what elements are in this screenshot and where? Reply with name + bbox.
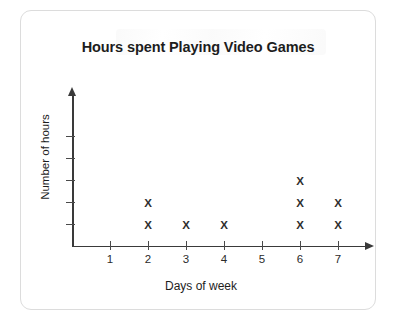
data-mark: X xyxy=(293,220,307,232)
y-axis-tick xyxy=(66,224,75,225)
x-axis-tick-label: 5 xyxy=(252,253,272,265)
x-axis-tick xyxy=(148,241,149,250)
data-mark: X xyxy=(141,198,155,210)
x-axis-tick xyxy=(110,241,111,250)
data-mark: X xyxy=(331,198,345,210)
data-mark: X xyxy=(331,220,345,232)
y-axis-arrow-icon xyxy=(68,87,76,96)
x-axis-tick-label: 1 xyxy=(100,253,120,265)
chart-card: Hours spent Playing Video Games Number o… xyxy=(20,10,376,310)
x-axis-tick xyxy=(262,241,263,250)
x-axis-tick-label: 7 xyxy=(328,253,348,265)
data-mark: X xyxy=(179,220,193,232)
y-axis-tick xyxy=(66,202,75,203)
y-axis-label: Number of hours xyxy=(39,92,51,222)
x-axis-line xyxy=(72,246,367,248)
data-mark: X xyxy=(293,198,307,210)
x-axis-arrow-icon xyxy=(365,242,374,250)
x-axis-tick xyxy=(300,241,301,250)
x-axis-tick xyxy=(186,241,187,250)
dot-plot: Number of hours Days of week 1234567 XXX… xyxy=(21,11,377,311)
data-mark: X xyxy=(217,220,231,232)
x-axis-tick xyxy=(338,241,339,250)
x-axis-label: Days of week xyxy=(81,279,321,293)
y-axis-tick xyxy=(66,136,75,137)
x-axis-tick-label: 2 xyxy=(138,253,158,265)
y-axis-tick xyxy=(66,158,75,159)
x-axis-tick-label: 4 xyxy=(214,253,234,265)
x-axis-tick-label: 3 xyxy=(176,253,196,265)
x-axis-tick xyxy=(224,241,225,250)
data-mark: X xyxy=(141,220,155,232)
data-mark: X xyxy=(293,176,307,188)
y-axis-tick xyxy=(66,180,75,181)
x-axis-tick-label: 6 xyxy=(290,253,310,265)
